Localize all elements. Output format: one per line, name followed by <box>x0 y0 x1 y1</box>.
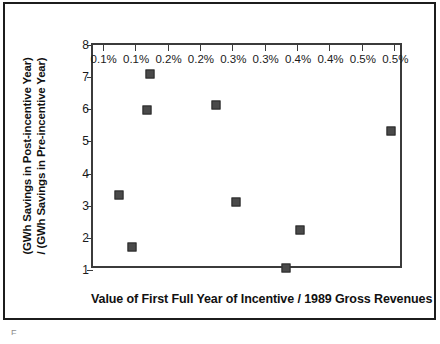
data-point <box>296 226 305 235</box>
x-tick-label: 0.1% <box>91 53 117 65</box>
y-axis-title-line-2: / (GWh Savings in Pre-incentive Year) <box>35 57 47 254</box>
x-tick-mark: 0.1% <box>135 45 136 51</box>
y-axis-title: (GWh Savings in Post-incentive Year) / (… <box>13 43 55 268</box>
figure-border: (GWh Savings in Post-incentive Year) / (… <box>3 2 436 320</box>
x-tick-label: 0.1% <box>123 53 149 65</box>
x-tick-mark: 0.2% <box>168 45 169 51</box>
data-point <box>142 105 151 114</box>
x-tick-label: 0.4% <box>317 53 343 65</box>
x-tick-mark: 0.4% <box>329 45 330 51</box>
caption-strip: F <box>3 324 436 342</box>
x-tick-label: 0.3% <box>253 53 279 65</box>
x-axis-title: Value of First Full Year of Incentive / … <box>91 292 402 306</box>
y-tick-label: 4 <box>82 167 89 181</box>
x-tick-label: 0.2% <box>188 53 214 65</box>
data-point <box>231 198 240 207</box>
x-tick-mark: 0.3% <box>265 45 266 51</box>
x-tick-mark: 0.2% <box>200 45 201 51</box>
data-point <box>127 242 136 251</box>
y-tick-label: 7 <box>82 70 89 84</box>
x-tick-mark: 0.3% <box>232 45 233 51</box>
data-point <box>146 69 155 78</box>
data-point <box>387 126 396 135</box>
x-tick-mark: 0.5% <box>394 45 395 51</box>
y-tick-label: 5 <box>82 134 89 148</box>
y-tick-label: 6 <box>82 102 89 116</box>
x-tick-label: 0.2% <box>155 53 181 65</box>
x-tick-mark: 0.1% <box>103 45 104 51</box>
y-tick-label: 3 <box>82 199 89 213</box>
x-tick-label: 0.3% <box>220 53 246 65</box>
y-axis-title-line-1: (GWh Savings in Post-incentive Year) <box>21 57 33 254</box>
caption-fragment: F <box>11 328 17 335</box>
x-tick-label: 0.4% <box>285 53 311 65</box>
x-tick-label: 0.5% <box>382 53 408 65</box>
y-tick-label: 8 <box>82 38 89 52</box>
y-tick-label: 1 <box>82 263 89 277</box>
data-point <box>114 191 123 200</box>
scatter-chart: (GWh Savings in Post-incentive Year) / (… <box>5 4 434 318</box>
data-point <box>212 101 221 110</box>
data-point <box>282 264 291 273</box>
x-tick-label: 0.5% <box>350 53 376 65</box>
x-tick-mark: 0.5% <box>362 45 363 51</box>
y-tick-label: 2 <box>82 231 89 245</box>
plot-area: 12345678 0.1%0.1%0.2%0.2%0.3%0.3%0.4%0.4… <box>91 43 402 268</box>
x-tick-mark: 0.4% <box>297 45 298 51</box>
